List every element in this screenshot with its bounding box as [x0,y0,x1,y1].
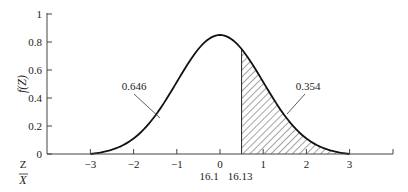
density-curve [90,35,349,154]
x-tick-label: 2 [304,158,310,170]
x-tick-label: −2 [128,158,140,170]
y-tick-label: 0.4 [28,92,42,104]
y-tick-label: 0.6 [28,64,42,76]
y-axis-title: f(Z) [15,75,29,93]
normal-distribution-chart: 00.20.40.60.81 −3−2−10123 f(Z) Z X 16.1 … [0,0,408,192]
x-tick-label: 1 [260,158,266,170]
x-axis-title-xbar: X [18,173,27,187]
shaded-area [242,49,350,154]
x-tick-label: 3 [347,158,353,170]
secondary-x-label-2: 16.13 [228,170,253,182]
y-axis-ticks: 00.20.40.60.81 [28,8,52,160]
y-tick-label: 0 [37,148,43,160]
annotation-right-area: 0.354 [296,80,321,92]
y-tick-label: 0.8 [28,36,42,48]
annotation-right-leader [287,94,305,114]
y-tick-label: 1 [37,8,43,20]
x-tick-label: −3 [85,158,97,170]
secondary-x-label-1: 16.1 [199,170,218,182]
x-tick-label: −1 [171,158,183,170]
annotation-left-leader [134,94,160,118]
x-axis-title-z: Z [20,158,27,170]
x-tick-label: 0 [217,158,223,170]
y-tick-label: 0.2 [28,120,42,132]
annotation-left-area: 0.646 [122,80,147,92]
